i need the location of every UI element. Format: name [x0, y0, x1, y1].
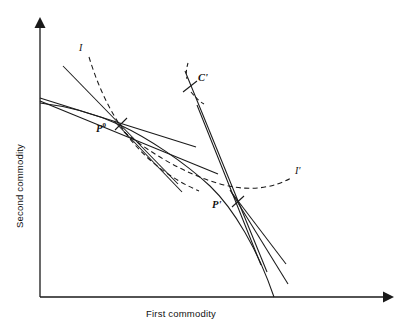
point-label-P-prime: P' — [212, 199, 221, 210]
price-line-p0-shallow-lower — [40, 101, 218, 174]
price-line-cprime-pprime — [185, 71, 267, 272]
price-lines-Pprime — [197, 105, 288, 284]
x-axis-label: First commodity — [146, 308, 216, 319]
arrow-up-icon — [35, 17, 46, 28]
curve-label-I-prime: I' — [295, 165, 300, 176]
arrow-right-icon — [383, 292, 394, 303]
price-lines-Cprime — [185, 71, 267, 272]
cprime-dash-stubs — [186, 63, 204, 104]
curve-label-I: I — [79, 42, 82, 53]
price-line-pprime-b — [230, 190, 288, 284]
point-ticks — [115, 81, 244, 207]
price-line-pprime-a — [197, 105, 261, 265]
point-label-P0: P0 — [96, 121, 106, 134]
point-label-P0-sup: 0 — [102, 121, 106, 129]
point-label-C-prime: C' — [198, 72, 208, 83]
axes-group — [35, 17, 395, 303]
price-line-p0-shallow-upper — [40, 98, 196, 147]
commodity-diagram — [0, 0, 400, 335]
y-axis-label: Second commodity — [14, 144, 25, 228]
